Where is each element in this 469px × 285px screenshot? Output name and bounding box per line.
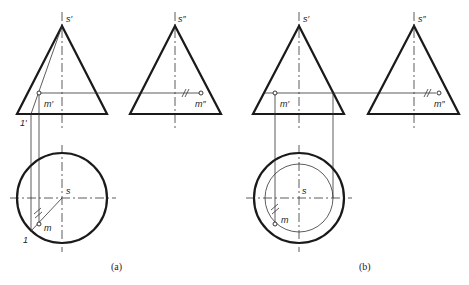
label-s-prime: s′ [66,14,73,24]
label-s: s [66,186,71,196]
caption-a: (a) [111,261,122,273]
point-m-double-prime [437,91,441,95]
label-1: 1 [23,235,28,245]
label-m: m [281,215,289,225]
label-m-double-prime: m″ [195,99,206,109]
label-s: s [302,186,307,196]
label-s-double-prime: s″ [178,14,187,24]
point-m-double-prime [199,91,203,95]
label-1-prime: 1′ [20,118,27,128]
tick-mark-4 [35,212,42,218]
label-s-prime: s′ [303,14,310,24]
tick-mark-3 [34,208,41,214]
point-m [273,222,277,226]
label-m-prime: m′ [44,99,53,109]
label-m-double-prime: m″ [434,99,445,109]
tick-mark-3 [271,204,278,210]
label-s-double-prime: s″ [418,14,427,24]
cone-projection-diagram: s′ m′ 1′ s″ m″ s m 1 (a) s′ m′ [0,0,469,285]
point-m-prime [273,91,277,95]
point-m-prime [37,91,41,95]
side-view-cone-outline [368,26,459,114]
point-m [37,222,41,226]
label-m-prime: m′ [280,99,289,109]
caption-b: (b) [359,261,371,273]
panel-b: s′ m′ s″ m″ s m (b) [246,12,459,273]
side-view-cone-outline [130,26,221,114]
front-view-cone-outline [253,26,344,114]
label-m: m [44,223,52,233]
tick-mark-4 [272,208,279,214]
panel-a: s′ m′ 1′ s″ m″ s m 1 (a) [10,12,221,273]
